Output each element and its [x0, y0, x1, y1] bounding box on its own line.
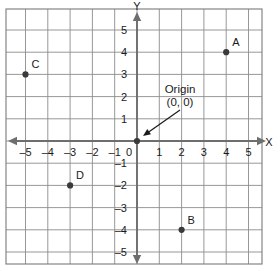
origin-point: [134, 138, 140, 144]
y-tick-label: –5: [115, 246, 127, 258]
data-point-d: [67, 182, 73, 188]
coordinate-plane-figure: –5–4–3–2–1012345–5–4–3–2–112345 ABCD Ori…: [0, 0, 280, 271]
y-tick-label: –1: [115, 157, 127, 169]
point-label-c: C: [32, 58, 40, 70]
x-tick-label: –5: [19, 146, 31, 158]
data-point-c: [22, 71, 28, 77]
x-tick-label: –2: [86, 146, 98, 158]
data-point-a: [223, 49, 229, 55]
x-tick-label: 2: [179, 146, 185, 158]
x-tick-label: –3: [64, 146, 76, 158]
y-axis-label: Y: [133, 0, 141, 12]
y-tick-label: 1: [121, 113, 127, 125]
point-label-d: D: [76, 169, 84, 181]
x-tick-label: –1: [109, 146, 121, 158]
x-tick-label: 5: [245, 146, 251, 158]
origin-tick-label: 0: [126, 146, 132, 158]
y-tick-label: 4: [121, 46, 127, 58]
data-point-b: [179, 227, 185, 233]
x-tick-label: 4: [223, 146, 229, 158]
y-tick-label: 2: [121, 91, 127, 103]
x-tick-label: 1: [156, 146, 162, 158]
origin-annotation-line2: (0, 0): [167, 96, 194, 108]
origin-annotation-line1: Origin: [165, 83, 196, 95]
x-tick-label: –4: [42, 146, 54, 158]
point-label-a: A: [232, 36, 240, 48]
y-tick-label: –3: [115, 202, 127, 214]
y-tick-label: –4: [115, 224, 127, 236]
x-tick-label: 3: [201, 146, 207, 158]
y-tick-label: –2: [115, 179, 127, 191]
y-tick-label: 5: [121, 24, 127, 36]
coordinate-plane-svg: –5–4–3–2–1012345–5–4–3–2–112345 ABCD Ori…: [0, 0, 280, 271]
y-tick-label: 3: [121, 68, 127, 80]
x-axis-label: X: [265, 136, 273, 148]
point-label-b: B: [188, 214, 195, 226]
